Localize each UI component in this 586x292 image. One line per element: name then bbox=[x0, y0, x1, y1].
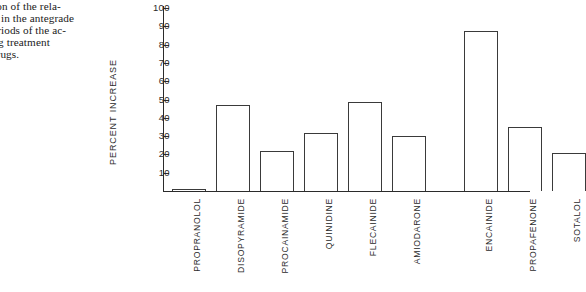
bar bbox=[348, 102, 382, 191]
bar bbox=[392, 136, 426, 191]
y-axis-tick-label-wrap: 60 bbox=[112, 76, 170, 86]
x-axis-label: DISOPYRAMIDE bbox=[237, 198, 246, 273]
x-axis-label: PROCAINAMIDE bbox=[281, 198, 290, 273]
x-axis-label-cell: PROPRANOLOL bbox=[184, 0, 194, 92]
y-axis-tick-label-wrap: 50 bbox=[112, 95, 170, 105]
x-axis-label: PROPAFENONE bbox=[529, 198, 538, 272]
bar bbox=[508, 127, 542, 191]
y-axis-tick-label-wrap: 20 bbox=[112, 149, 170, 159]
y-axis-tick-label-wrap: 100 bbox=[112, 3, 170, 13]
figure-caption-text: parison of the rela- eases in the antegr… bbox=[0, 0, 118, 60]
x-axis-label-cell: PROCAINAMIDE bbox=[272, 0, 282, 92]
y-axis-tick-label-wrap: 40 bbox=[112, 113, 170, 123]
x-axis-label-cell: DISOPYRAMIDE bbox=[228, 0, 238, 92]
bar bbox=[552, 153, 586, 191]
y-axis-tick-label-wrap: 30 bbox=[112, 131, 170, 141]
bar bbox=[172, 189, 206, 191]
x-axis-label: QUINIDINE bbox=[325, 198, 334, 249]
x-axis-label-cell: AMIODARONE bbox=[404, 0, 414, 92]
x-axis-label-cell: PROPAFENONE bbox=[520, 0, 530, 92]
x-axis-label: ENCAINIDE bbox=[485, 198, 494, 252]
y-axis-tick-label-wrap: 10 bbox=[112, 168, 170, 178]
y-axis-tick-label-wrap: 70 bbox=[112, 58, 170, 68]
x-axis-label-cell: QUINIDINE bbox=[316, 0, 326, 92]
x-axis-label: PROPRANOLOL bbox=[193, 198, 202, 272]
bar bbox=[216, 105, 250, 191]
bar bbox=[260, 151, 294, 191]
figure-caption-block: parison of the rela- eases in the antegr… bbox=[0, 0, 118, 62]
x-axis-label: AMIODARONE bbox=[413, 198, 422, 264]
bar-chart: PERCENT INCREASE 102030405060708090100 P… bbox=[112, 0, 537, 292]
y-axis-tick-label-wrap: 90 bbox=[112, 21, 170, 31]
x-axis-label-cell: FLECAINIDE bbox=[360, 0, 370, 92]
bar bbox=[304, 133, 338, 191]
y-axis-tick-label-wrap: 80 bbox=[112, 40, 170, 50]
x-axis-label: SOTALOL bbox=[573, 198, 582, 242]
x-axis-label-cell: SOTALOL bbox=[564, 0, 574, 92]
x-axis-label-cell: ENCAINIDE bbox=[476, 0, 486, 92]
x-axis-label: FLECAINIDE bbox=[369, 198, 378, 256]
x-axis-line bbox=[163, 191, 530, 192]
